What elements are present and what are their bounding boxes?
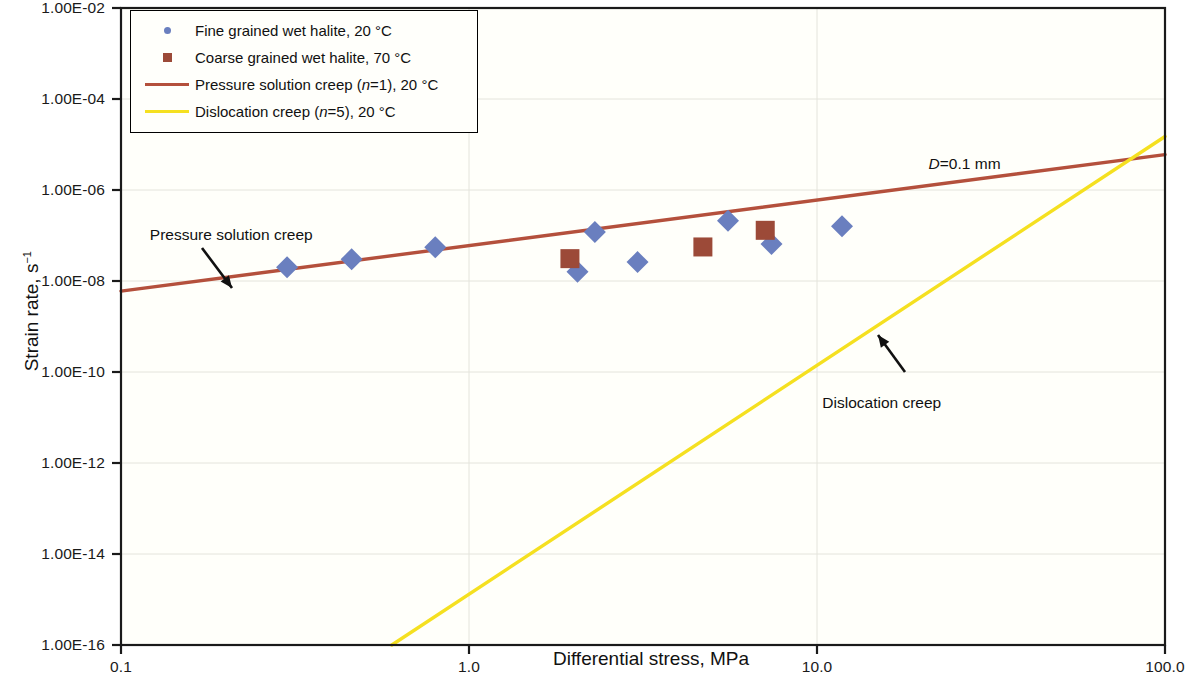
data-point-square bbox=[560, 249, 579, 268]
square-marker-icon bbox=[139, 53, 195, 62]
y-axis-tick-label: 1.00E-14 bbox=[0, 545, 105, 563]
y-axis-tick-label: 1.00E-02 bbox=[0, 0, 105, 17]
x-axis-tick-label: 1.0 bbox=[409, 658, 529, 676]
x-axis-title-text: Differential stress, MPa bbox=[553, 648, 749, 669]
x-axis-tick-label: 10.0 bbox=[757, 658, 877, 676]
x-axis-tick-label: 100.0 bbox=[1105, 658, 1194, 676]
line-swatch-icon-pressure bbox=[139, 83, 195, 86]
legend-label-fine-grained: Fine grained wet halite, 20 °C bbox=[195, 22, 392, 39]
data-point-square bbox=[693, 237, 712, 256]
y-axis-title: Strain rate, s−1 bbox=[21, 201, 43, 421]
pressure-solution-creep-annotation: Pressure solution creep bbox=[150, 226, 313, 244]
legend: Fine grained wet halite, 20 °C Coarse gr… bbox=[130, 10, 478, 133]
data-point-square bbox=[756, 221, 775, 240]
grain-size-annotation: D=0.1 mm bbox=[929, 155, 1001, 173]
dislocation-creep-annotation: Dislocation creep bbox=[822, 394, 941, 412]
chart-figure: Strain rate, s−1 Differential stress, MP… bbox=[0, 0, 1194, 680]
y-axis-tick-label: 1.00E-06 bbox=[0, 181, 105, 199]
diamond-marker-icon bbox=[139, 27, 195, 34]
legend-item-coarse-grained: Coarse grained wet halite, 70 °C bbox=[139, 44, 469, 71]
line-swatch-icon-dislocation bbox=[139, 110, 195, 113]
y-axis-tick-label: 1.00E-04 bbox=[0, 90, 105, 108]
legend-item-dislocation: Dislocation creep (n=5), 20 °C bbox=[139, 98, 469, 125]
legend-item-pressure-solution: Pressure solution creep (n=1), 20 °C bbox=[139, 71, 469, 98]
legend-label-pressure-solution: Pressure solution creep (n=1), 20 °C bbox=[195, 76, 438, 93]
legend-item-fine-grained: Fine grained wet halite, 20 °C bbox=[139, 17, 469, 44]
x-axis-tick-label: 0.1 bbox=[61, 658, 181, 676]
legend-label-coarse-grained: Coarse grained wet halite, 70 °C bbox=[195, 49, 411, 66]
y-axis-tick-label: 1.00E-16 bbox=[0, 636, 105, 654]
y-axis-title-exponent: −1 bbox=[21, 251, 33, 264]
legend-label-dislocation: Dislocation creep (n=5), 20 °C bbox=[195, 103, 396, 120]
y-axis-tick-label: 1.00E-08 bbox=[0, 272, 105, 290]
y-axis-tick-label: 1.00E-10 bbox=[0, 363, 105, 381]
y-axis-tick-label: 1.00E-12 bbox=[0, 454, 105, 472]
